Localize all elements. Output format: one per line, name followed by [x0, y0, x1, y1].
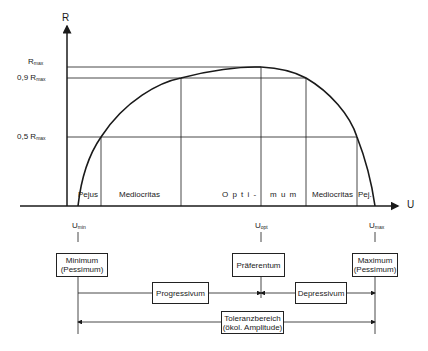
diagram-canvas — [0, 0, 428, 351]
x-axis-label: U — [407, 200, 414, 209]
zone-mediocritas-right: Mediocritas — [312, 190, 353, 199]
toleranz-box: Toleranzbereich(ökol. Amplitude) — [221, 311, 284, 334]
minimum-box: Minimum(Pessimum) — [56, 253, 108, 277]
y-tick-rmax: Rmax — [28, 57, 43, 68]
x-tick-umin: Umin — [72, 221, 86, 232]
progressivum-box: Progressivum — [152, 282, 209, 304]
praeferentum-box: Präferentum — [232, 253, 285, 277]
x-tick-uopt: Uopt — [255, 221, 268, 232]
y-tick-r09: 0,9 Rmax — [17, 73, 46, 84]
zone-pejus-left: Pejus — [78, 190, 98, 199]
x-tick-umax: Umax — [369, 221, 384, 232]
y-tick-r05: 0,5 Rmax — [17, 132, 46, 143]
y-axis-label: R — [62, 13, 69, 22]
zone-opti: O p t i - — [222, 190, 257, 199]
maximum-box: Maximum(Pessimum) — [352, 253, 398, 277]
zone-pej-right: Pej. — [358, 190, 372, 199]
response-curve — [78, 67, 375, 206]
depressivum-box: Depressivum — [295, 282, 347, 304]
zone-mediocritas-left: Mediocritas — [119, 190, 160, 199]
zone-mum: m u m — [270, 190, 297, 199]
